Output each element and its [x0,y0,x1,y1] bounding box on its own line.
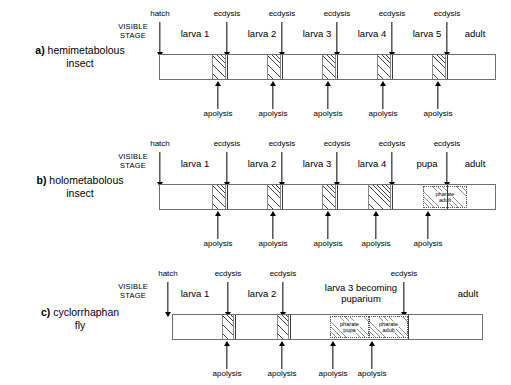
panel-b-ecdysis-3-label: ecdysis [324,139,351,148]
panel-c-pharate-pupa-line2: pupa [342,327,356,333]
panel-c-stage-puparium: puparium [296,293,426,304]
panel-c-hatch-arrow-shaft [167,282,168,314]
panel-c-apolysis-3-label: apolysis [319,369,348,378]
panel-a-caption: a) hemimetabolous insect [6,44,154,69]
panel-a-timeline-bar [159,54,496,80]
panel-b-timeline-bar: pharate adult [159,184,496,210]
panel-b-apolysis-5-arrow-shaft [427,215,428,239]
panel-c-apolysis-4-arrow-shaft [371,345,372,369]
panel-b-apolysis-band-4 [368,185,391,209]
panel-c-apolysis-1-arrow-shaft [226,345,227,369]
panel-b-apolysis-band-1 [212,185,226,209]
panel-b-apolysis-5-label: apolysis [414,239,443,248]
panel-a-ecdysis-3-arrow-shaft [336,22,337,54]
panel-a-apolysis-1-label: apolysis [204,109,233,118]
panel-a-apolysis-2-label: apolysis [259,109,288,118]
panel-a-title-line1: hemimetabolous [48,44,125,56]
visible-stage-line2: STAGE [110,292,156,301]
panel-b-ecdysis-divider-3 [337,185,338,209]
panel-a-stage-adult: adult [452,28,498,39]
panel-c-apolysis-2-label: apolysis [268,369,297,378]
panel-b-ecdysis-1-arrow-shaft [226,152,227,184]
panel-c-ecdysis-1-arrow-shaft [227,282,228,314]
panel-b-ecdysis-5-arrow-shaft [446,152,447,184]
panel-b-hatch-arrow-shaft [159,152,160,184]
panel-c-pharate-adult-line2: adult [381,327,395,333]
panel-c-ecdysis-2-arrow-shaft [282,282,283,314]
panel-a-ecdysis-1-label: ecdysis [214,9,241,18]
panel-a-ecdysis-5-arrow-shaft [446,22,447,54]
panel-a-hatch-arrow-shaft [159,22,160,54]
panel-a-visible-stage-label: VISIBLE STAGE [110,23,156,40]
panel-a-ecdysis-divider-5 [447,55,448,79]
panel-a-apolysis-3-label: apolysis [314,109,343,118]
panel-a-ecdysis-1-arrow-shaft [226,22,227,54]
panel-a-apolysis-band-3 [322,55,336,79]
panel-b-apolysis-1-label: apolysis [204,239,233,248]
panel-a-ecdysis-divider-4 [392,55,393,79]
panel-c-apolysis-3-arrow-shaft [332,345,333,369]
panel-a-ecdysis-2-label: ecdysis [269,9,296,18]
panel-c-ecdysis-divider-1 [235,315,236,339]
panel-b-apolysis-2-arrow-shaft [272,215,273,239]
panel-c-stage-adult: adult [443,288,493,299]
panel-c-ecdysis-3-label: ecdysis [391,269,418,278]
panel-b-hatch-label: hatch [150,139,170,148]
panel-a-ecdysis-divider-1 [227,55,228,79]
panel-b-ecdysis-divider-1 [227,185,228,209]
panel-c-visible-stage-label: VISIBLE STAGE [110,283,156,300]
panel-c-ecdysis-3-arrow-shaft [403,282,404,314]
panel-b-apolysis-band-2 [267,185,281,209]
panel-b-apolysis-3-arrow-shaft [327,215,328,239]
panel-b-visible-stage-label: VISIBLE STAGE [110,153,156,170]
panel-c-apolysis-2-arrow-shaft [281,345,282,369]
panel-a-apolysis-2-arrow-shaft [272,85,273,109]
panel-b-ecdysis-divider-4 [392,185,393,209]
panel-b-stage-adult: adult [452,158,498,169]
panel-c-pharate-adult-box: pharate adult [369,316,408,338]
panel-a-apolysis-5-label: apolysis [424,109,453,118]
panel-c-ecdysis-2-label: ecdysis [270,269,297,278]
panel-c-hatch-label: hatch [158,269,178,278]
panel-b-caption: b) holometabolous insect [6,174,154,199]
panel-a-ecdysis-3-label: ecdysis [324,9,351,18]
panel-b-title-line2: insect [66,187,93,199]
panel-c-apolysis-1-label: apolysis [213,369,242,378]
panel-holometabolous-insect: b) holometabolous insect VISIBLE STAGE l… [0,130,511,258]
panel-b-ecdysis-2-arrow-shaft [281,152,282,184]
panel-cyclorrhaphan-fly: c) cyclorrhaphan fly VISIBLE STAGE larva… [0,258,511,385]
panel-a-apolysis-3-arrow-shaft [327,85,328,109]
panel-a-apolysis-4-label: apolysis [369,109,398,118]
panel-a-stage-larva-1: larva 1 [167,28,223,39]
panel-a-apolysis-band-5 [432,55,446,79]
panel-a-ecdysis-5-label: ecdysis [434,9,461,18]
panel-b-ecdysis-5-label: ecdysis [434,139,461,148]
panel-c-title-line2: fly [75,319,86,331]
panel-c-index: c) [41,306,50,318]
panel-b-apolysis-4-label: apolysis [362,239,391,248]
panel-b-pharate-adult-box: pharate adult [423,186,467,208]
panel-a-ecdysis-divider-3 [337,55,338,79]
panel-a-ecdysis-4-label: ecdysis [379,9,406,18]
panel-b-ecdysis-4-label: ecdysis [379,139,406,148]
panel-a-ecdysis-2-arrow-shaft [281,22,282,54]
panel-c-stage-larva-3-becoming: larva 3 becoming [296,282,426,293]
panel-a-apolysis-band-1 [212,55,226,79]
panel-c-title-line1: cyclorrhaphan [53,306,119,318]
panel-b-apolysis-4-arrow-shaft [375,215,376,239]
panel-a-ecdysis-4-arrow-shaft [391,22,392,54]
panel-c-hatch-arrow-head [165,312,171,317]
panel-a-title-line2: insect [66,57,93,69]
panel-b-ecdysis-1-label: ecdysis [214,139,241,148]
panel-c-timeline-bar: pharate pupa pharate adult [172,314,483,340]
panel-a-apolysis-band-2 [267,55,281,79]
panel-a-apolysis-band-4 [377,55,391,79]
panel-b-pharate-adult-line2: adult [438,197,452,203]
panel-c-ecdysis-1-label: ecdysis [215,269,242,278]
panel-b-ecdysis-2-label: ecdysis [269,139,296,148]
panel-b-apolysis-band-3 [322,185,336,209]
panel-c-pharate-pupa-box: pharate pupa [330,316,369,338]
panel-b-stage-larva-1: larva 1 [167,158,223,169]
visible-stage-line2: STAGE [110,32,156,41]
panel-b-title-line1: holometabolous [49,174,123,186]
